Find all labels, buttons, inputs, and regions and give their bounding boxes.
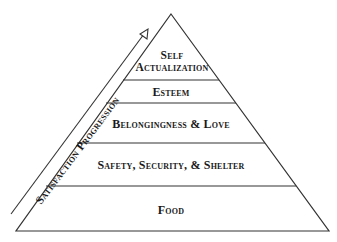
level-food: Food [121,204,221,216]
pyramid-diagram: Self Actualization Esteem Belongingness … [0,0,337,242]
level-self-line1: Self [131,49,213,61]
level-self-actualization: Self Actualization [131,49,213,73]
level-esteem: Esteem [121,86,221,98]
level-safety-security-shelter: Safety, Security, & Shelter [60,159,282,171]
level-belongingness-love: Belongingness & Love [91,118,251,130]
level-self-line2: Actualization [131,61,213,73]
